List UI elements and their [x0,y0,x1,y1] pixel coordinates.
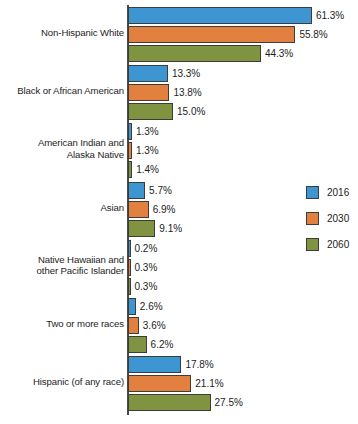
bar [128,220,155,237]
bar-value-label: 1.3% [136,125,159,138]
bar [128,240,131,257]
bar [128,298,136,315]
category-label-line: Alaska Native [6,149,124,161]
bar [128,336,147,353]
legend-item[interactable]: 2060 [306,238,358,264]
bar-row: 27.5% [128,394,358,411]
bar-value-label: 6.2% [151,338,174,351]
bar-value-label: 0.3% [135,261,158,274]
category-label: Native Hawaiian andother Pacific Islande… [6,254,124,277]
bar [128,103,173,120]
bar-row: 21.1% [128,375,358,392]
legend-label: 2016 [327,186,349,199]
legend-label: 2060 [327,238,349,251]
bar-row: 44.3% [128,45,358,62]
category-label: Two or more races [6,318,124,330]
bar [128,161,132,178]
bar-value-label: 17.8% [185,358,213,371]
chart-legend: 201620302060 [306,186,358,264]
bar [128,182,145,199]
bar-value-label: 2.6% [140,300,163,313]
category-label-line: Asian [6,202,124,214]
bar-value-label: 3.6% [143,319,166,332]
bar-value-label: 21.1% [195,377,223,390]
bar [128,84,169,101]
bar-row: 3.6% [128,317,358,334]
bar-value-label: 13.3% [172,67,200,80]
bar-row: 61.3% [128,7,358,24]
category-label: Black or African American [6,85,124,97]
bar-row: 13.3% [128,65,358,82]
bar-row: 17.8% [128,356,358,373]
bar-value-label: 1.4% [136,163,159,176]
bar-row: 13.8% [128,84,358,101]
bar [128,123,132,140]
legend-item[interactable]: 2016 [306,186,358,212]
category-label-line: Two or more races [6,318,124,330]
bar-value-label: 15.0% [177,105,205,118]
legend-label: 2030 [327,212,349,225]
bar [128,26,295,43]
bar [128,65,168,82]
category-label: Non-Hispanic White [6,27,124,39]
legend-swatch-icon [306,186,319,199]
bar-row: 1.3% [128,123,358,140]
category-label-line: American Indian and [6,137,124,149]
bar [128,375,191,392]
bar-value-label: 44.3% [265,47,293,60]
legend-swatch-icon [306,212,319,225]
bar [128,278,131,295]
bar [128,7,312,24]
bar-value-label: 6.9% [153,203,176,216]
bar-value-label: 0.2% [135,242,158,255]
category-label-line: Non-Hispanic White [6,27,124,39]
category-label-line: Black or African American [6,85,124,97]
bar [128,45,261,62]
plot-area: Non-Hispanic White61.3%55.8%44.3%Black o… [0,0,358,424]
bar-value-label: 55.8% [299,28,327,41]
legend-swatch-icon [306,238,319,251]
bar-value-label: 9.1% [159,222,182,235]
bar-row: 1.4% [128,161,358,178]
bar [128,142,132,159]
bar [128,201,149,218]
category-label-line: Native Hawaiian and [6,254,124,266]
bar [128,394,211,411]
legend-item[interactable]: 2030 [306,212,358,238]
category-label: Hispanic (of any race) [6,376,124,388]
bar-value-label: 13.8% [173,86,201,99]
bar-value-label: 1.3% [136,144,159,157]
category-label-line: other Pacific Islander [6,265,124,277]
bar-row: 15.0% [128,103,358,120]
category-label: Asian [6,202,124,214]
bar-row: 1.3% [128,142,358,159]
bar-row: 6.2% [128,336,358,353]
bar [128,259,131,276]
category-label: American Indian andAlaska Native [6,137,124,160]
bar-row: 0.3% [128,278,358,295]
category-label-line: Hispanic (of any race) [6,376,124,388]
bar [128,317,139,334]
bar-value-label: 61.3% [316,9,344,22]
bar-value-label: 27.5% [215,396,243,409]
bar-value-label: 0.3% [135,280,158,293]
bar-row: 2.6% [128,298,358,315]
bar-chart: Non-Hispanic White61.3%55.8%44.3%Black o… [0,0,358,424]
bar [128,356,181,373]
bar-value-label: 5.7% [149,184,172,197]
bar-row: 55.8% [128,26,358,43]
